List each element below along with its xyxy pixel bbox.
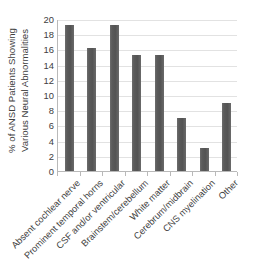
bar	[222, 103, 231, 171]
bar	[200, 148, 209, 171]
y-tick-label: 6	[34, 121, 54, 131]
y-tick-label: 20	[34, 15, 54, 25]
bar	[177, 118, 186, 171]
bar	[110, 25, 119, 171]
y-tick-label: 18	[34, 30, 54, 40]
y-axis-title-line-2: Various Neural Abnormalities	[18, 28, 31, 153]
bars-layer	[58, 20, 237, 171]
y-axis-title-line-1: % of ANSD Patients Showing	[6, 28, 19, 153]
y-axis-title: % of ANSD Patients Showing Various Neura…	[0, 0, 36, 180]
y-tick-label: 4	[34, 137, 54, 147]
bar	[132, 55, 141, 171]
x-tick-label: Other	[216, 178, 240, 202]
y-tick-label: 2	[34, 152, 54, 162]
y-tick-label: 10	[34, 91, 54, 101]
bar	[87, 48, 96, 171]
x-axis-category-labels: Absent cochlear nerveProminent temporal …	[0, 176, 262, 280]
y-tick-label: 12	[34, 76, 54, 86]
y-tick-label: 14	[34, 61, 54, 71]
y-tick-label: 16	[34, 45, 54, 55]
plot-area	[57, 20, 237, 172]
y-tick-label: 8	[34, 106, 54, 116]
bar-chart-figure: % of ANSD Patients Showing Various Neura…	[0, 0, 262, 280]
bar	[155, 55, 164, 171]
y-axis-tick-labels: 20181614121086420	[34, 0, 54, 180]
bar	[65, 25, 74, 171]
